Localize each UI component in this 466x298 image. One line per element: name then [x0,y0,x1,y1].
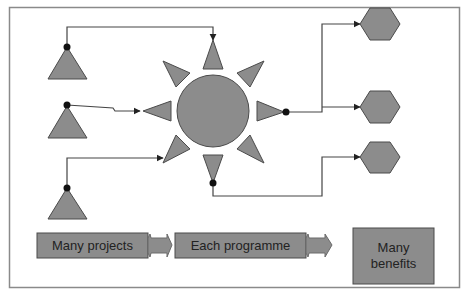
sun-center-circle [177,75,249,147]
dot-project-3 [64,185,71,192]
programme-sun [143,40,284,183]
programme-diagram [0,0,466,298]
flow-box-many-projects [37,233,148,258]
dot-sun-bottom [210,180,217,187]
flow-box-many-benefits [353,228,434,284]
flow-box-each-programme [175,233,306,258]
dot-project-2 [64,102,71,109]
dot-sun-right [283,109,290,116]
dot-project-1 [64,44,71,51]
